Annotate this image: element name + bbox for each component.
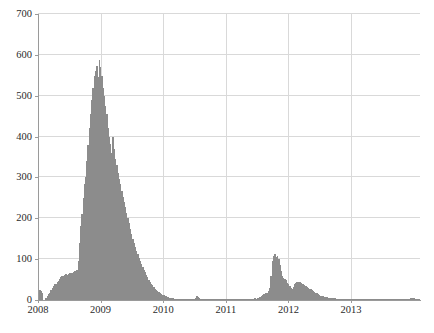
y-tick-label: 400 (0, 131, 32, 142)
x-tick-label: 2011 (216, 305, 237, 316)
x-tick-mark (38, 300, 39, 303)
bar (42, 293, 44, 300)
y-tick-label: 700 (0, 9, 32, 20)
x-tick-label: 2008 (28, 305, 49, 316)
y-tick-mark (35, 137, 38, 138)
x-axis-line (38, 300, 421, 301)
x-tick-mark (351, 300, 352, 303)
y-tick-label: 600 (0, 50, 32, 61)
x-tick-label: 2012 (278, 305, 299, 316)
y-axis-line (38, 14, 39, 301)
x-tick-label: 2013 (341, 305, 362, 316)
y-tick-label: 200 (0, 213, 32, 224)
y-tick-mark (35, 259, 38, 260)
x-tick-mark (226, 300, 227, 303)
y-tick-mark (35, 55, 38, 56)
bar-series (38, 14, 420, 300)
y-tick-mark (35, 14, 38, 15)
y-tick-label: 500 (0, 90, 32, 101)
x-tick-mark (101, 300, 102, 303)
y-tick-mark (35, 177, 38, 178)
x-tick-label: 2010 (153, 305, 174, 316)
chart-container: 0100200300400500600700 20082009201020112… (0, 0, 434, 333)
y-tick-mark (35, 96, 38, 97)
x-tick-label: 2009 (90, 305, 111, 316)
x-tick-mark (288, 300, 289, 303)
x-tick-mark (163, 300, 164, 303)
y-tick-mark (35, 218, 38, 219)
plot-area (38, 14, 420, 300)
y-tick-label: 100 (0, 254, 32, 265)
y-tick-label: 300 (0, 172, 32, 183)
